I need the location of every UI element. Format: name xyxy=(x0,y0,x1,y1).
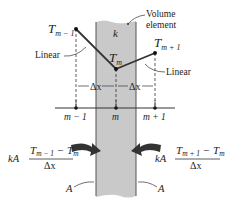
point-t-m xyxy=(114,67,118,71)
finite-difference-diagram: Tm − 1 Tm Tm + 1 k Volume element Linear… xyxy=(0,0,227,206)
point-t-m-minus-1 xyxy=(74,27,78,31)
area-label-left: A xyxy=(65,183,73,194)
svg-text:Tm + 1 − Tm: Tm + 1 − Tm xyxy=(176,144,225,158)
svg-text:Δx: Δx xyxy=(190,160,201,171)
flux-right-expression: kA Tm + 1 − Tm Δx xyxy=(155,144,225,171)
svg-text:kA: kA xyxy=(8,153,20,164)
volume-label-line1: Volume xyxy=(146,9,175,19)
area-right-pointer xyxy=(138,182,157,187)
node-m-plus-1: m + 1 xyxy=(143,112,166,122)
svg-text:kA: kA xyxy=(155,153,167,164)
point-t-m-plus-1 xyxy=(153,51,157,55)
volume-label-line2: element xyxy=(146,20,176,30)
label-t-m-minus-1: Tm − 1 xyxy=(48,21,74,38)
label-t-m-plus-1: Tm + 1 xyxy=(154,35,180,52)
area-label-right: A xyxy=(157,183,165,194)
svg-text:Tm − 1 − Tm: Tm − 1 − Tm xyxy=(30,144,79,158)
svg-text:Δx: Δx xyxy=(44,160,55,171)
flux-left-expression: kA Tm − 1 − Tm Δx xyxy=(8,144,79,171)
dx-left: Δx xyxy=(90,81,101,92)
node-m: m xyxy=(112,112,119,122)
dx-right: Δx xyxy=(129,81,140,92)
linear-left-pointer xyxy=(64,47,86,56)
node-m-minus-1: m − 1 xyxy=(64,112,87,122)
linear-label-right: Linear xyxy=(166,67,192,77)
linear-label-left: Linear xyxy=(35,50,61,60)
area-left-pointer xyxy=(74,182,94,187)
